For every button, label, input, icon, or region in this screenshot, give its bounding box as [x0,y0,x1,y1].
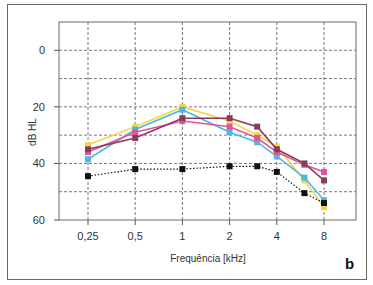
data-point-marker [132,135,138,141]
data-point-marker [179,115,185,121]
y-axis-title: dB HL [27,118,38,146]
x-axis-ticks: 0,250,51248 [77,220,327,242]
x-tick-label: 8 [321,230,327,242]
x-tick-label: 0,5 [128,230,143,242]
y-tick-label: 0 [39,44,45,56]
data-point-marker [254,135,260,141]
data-point-marker [227,115,233,121]
data-point-marker [301,160,307,166]
data-point-marker [227,124,233,130]
data-point-marker [227,163,233,169]
series-cyan [85,107,327,204]
x-axis-title: Frequência [kHz] [170,253,246,264]
data-point-marker [85,173,91,179]
data-point-marker [227,129,233,135]
data-point-marker [321,169,327,175]
data-point-marker [274,169,280,175]
data-point-marker [321,200,327,206]
y-tick-label: 40 [33,157,45,169]
y-tick-label: 20 [33,101,45,113]
series-group [85,104,327,210]
x-tick-label: 0,25 [77,230,98,242]
audiogram-chart: 0204060 0,250,51248 dB HL Frequência [kH… [0,0,373,285]
series-black [85,163,327,206]
data-point-marker [132,129,138,135]
y-tick-label: 60 [33,214,45,226]
series-line [88,166,324,203]
data-point-marker [85,156,91,162]
data-point-marker [301,175,307,181]
data-point-marker [301,190,307,196]
data-point-marker [254,124,260,130]
data-point-marker [179,107,185,113]
data-point-marker [85,146,91,152]
x-tick-label: 2 [227,230,233,242]
x-tick-label: 1 [179,230,185,242]
series-line [88,121,324,172]
x-tick-label: 4 [274,230,280,242]
data-point-marker [132,166,138,172]
panel-label: b [345,255,354,272]
series-purple [85,115,327,183]
data-point-marker [274,146,280,152]
data-point-marker [321,177,327,183]
series-line [88,118,324,180]
data-point-marker [254,163,260,169]
data-point-marker [179,166,185,172]
